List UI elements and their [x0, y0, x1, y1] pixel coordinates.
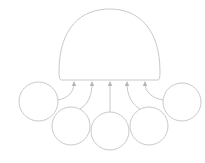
input-node-5 [163, 83, 201, 121]
convergence-diagram [0, 0, 205, 163]
arrow-line-1 [58, 83, 74, 100]
input-node-3 [91, 112, 129, 150]
input-node-4 [130, 107, 168, 145]
diagram-canvas [0, 0, 205, 163]
arrow-line-2 [80, 83, 92, 109]
arrowhead-icon [108, 81, 112, 86]
arrow-line-5 [145, 83, 163, 100]
arrowhead-icon [125, 81, 129, 86]
arrow-line-4 [127, 83, 140, 109]
input-node-1 [19, 82, 58, 121]
arrowhead-icon [90, 81, 94, 86]
hub-dome-shape [59, 9, 160, 80]
hub-dome [59, 9, 160, 80]
arrowhead-icon [143, 81, 147, 86]
input-node-2 [52, 107, 90, 145]
arrowhead-icon [72, 81, 76, 86]
